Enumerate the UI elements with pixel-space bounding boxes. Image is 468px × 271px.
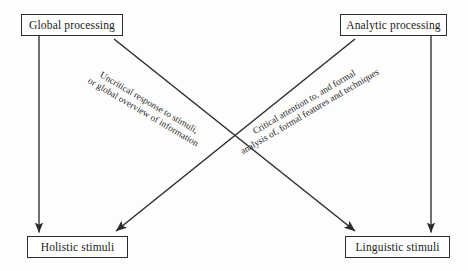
diagram-connectors (0, 0, 468, 271)
node-analytic-processing[interactable]: Analytic processing (340, 14, 447, 36)
node-linguistic-stimuli-label: Linguistic stimuli (355, 241, 439, 253)
node-holistic-stimuli[interactable]: Holistic stimuli (27, 236, 128, 258)
node-global-processing[interactable]: Global processing (21, 14, 123, 36)
node-global-processing-label: Global processing (29, 19, 115, 31)
node-holistic-stimuli-label: Holistic stimuli (41, 241, 115, 253)
node-analytic-processing-label: Analytic processing (346, 19, 441, 31)
node-linguistic-stimuli[interactable]: Linguistic stimuli (345, 236, 450, 258)
diagram-canvas: Global processing Analytic processing Ho… (0, 0, 468, 271)
